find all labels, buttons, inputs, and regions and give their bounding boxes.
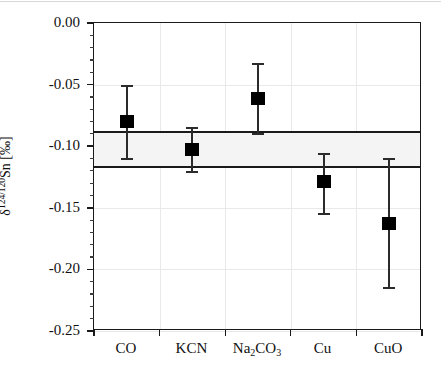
y-tick-minor [90,158,94,159]
x-tick [421,329,422,336]
y-tick-minor [90,244,94,245]
y-tick-label: -0.10 [49,137,80,154]
gridline-horizontal [94,208,420,209]
x-tick [290,329,291,336]
y-tick-minor [90,318,94,319]
y-tick-label: -0.25 [49,322,80,339]
y-tick-label: -0.15 [49,198,80,215]
y-tick-label: -0.20 [49,260,80,277]
data-marker [382,217,396,230]
x-axis-tick-labels: COKCNNa2CO3CuCuO [93,340,421,370]
y-tick-minor [90,96,94,97]
x-tick-label: CO [115,340,136,357]
error-bar-cap-lower [252,133,264,135]
error-bar-cap-upper [252,63,264,65]
y-tick-major [87,145,94,147]
y-tick-minor [90,133,94,134]
y-tick-minor [90,170,94,171]
y-axis-tick-labels: 0.00-0.05-0.10-0.15-0.20-0.25 [0,22,80,330]
y-tick-minor [90,220,94,221]
x-tick [159,329,160,336]
gridline-vertical [225,23,226,329]
y-tick-minor [90,306,94,307]
y-tick-major [87,207,94,209]
x-tick [356,329,357,336]
y-tick-minor [90,35,94,36]
y-tick-minor [90,232,94,233]
error-bar-cap-upper [383,158,395,160]
plot-area [93,22,421,330]
y-tick-label: -0.05 [49,75,80,92]
data-marker [317,175,331,188]
error-bar-cap-lower [318,213,330,215]
y-tick-minor [90,183,94,184]
y-tick-minor [90,72,94,73]
y-tick-minor [90,195,94,196]
error-bar-cap-upper [121,85,133,87]
gridline-horizontal [94,331,420,332]
x-tick [225,329,226,336]
x-tick-label: Na2CO3 [233,340,281,357]
gridline-vertical [291,23,292,329]
y-tick-major [87,22,94,24]
error-bar-cap-lower [383,287,395,289]
error-bar-cap-lower [186,171,198,173]
data-marker [120,115,134,128]
gridline-horizontal [94,269,420,270]
y-tick-major [87,84,94,86]
x-tick-label: CuO [374,340,402,357]
gridline-vertical [356,23,357,329]
error-bar-cap-upper [186,127,198,129]
top-rule-divider [0,1,441,2]
y-tick-label: 0.00 [54,14,80,31]
y-tick-minor [90,293,94,294]
data-marker [251,92,265,105]
error-bar-cap-upper [318,153,330,155]
figure-container: δ124/120Sn [‰] 0.00-0.05-0.10-0.15-0.20-… [0,0,441,378]
x-tick-label: KCN [176,340,208,357]
y-tick-minor [90,281,94,282]
y-tick-major [87,269,94,271]
reference-band [94,131,420,168]
data-marker [185,143,199,156]
y-tick-minor [90,121,94,122]
y-tick-minor [90,256,94,257]
y-tick-minor [90,59,94,60]
x-tick [93,329,94,336]
x-tick-label: Cu [314,340,332,357]
error-bar-cap-lower [121,158,133,160]
y-tick-minor [90,109,94,110]
y-tick-minor [90,47,94,48]
gridline-vertical [160,23,161,329]
